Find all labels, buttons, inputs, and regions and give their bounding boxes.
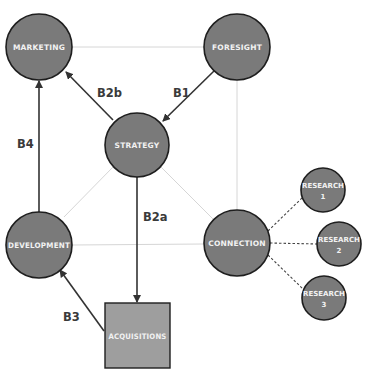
- node-foresight: FORESIGHT: [204, 14, 270, 80]
- edge-label-b2a: B2a: [143, 210, 168, 224]
- node-number-research-1: 1: [321, 193, 326, 201]
- node-development: DEVELOPMENT: [6, 212, 72, 278]
- grid-line-strategy-development: [64, 167, 113, 217]
- node-connection: CONNECTION: [204, 210, 270, 276]
- node-acquisitions: ACQUISITIONS: [105, 303, 170, 368]
- grid-line-strategy-connection: [161, 167, 213, 219]
- edge-label-b3: B3: [63, 310, 80, 324]
- node-label-research-3: RESEARCH: [303, 290, 345, 298]
- node-label-connection: CONNECTION: [208, 239, 266, 248]
- edge-label-b4: B4: [17, 137, 34, 151]
- node-strategy: STRATEGY: [105, 113, 169, 177]
- node-research-3: RESEARCH 3: [302, 276, 346, 320]
- dashed-line-research-1: [268, 197, 303, 231]
- grid-line-development-connection: [72, 244, 204, 245]
- edge-label-b2b: B2b: [97, 86, 122, 100]
- node-label-acquisitions: ACQUISITIONS: [109, 332, 167, 341]
- node-research-1: RESEARCH 1: [301, 168, 345, 212]
- node-label-foresight: FORESIGHT: [212, 43, 263, 52]
- node-number-research-3: 3: [322, 301, 327, 309]
- node-research-2: RESEARCH 2: [317, 222, 361, 266]
- node-number-research-2: 2: [337, 247, 342, 255]
- node-label-research-2: RESEARCH: [318, 236, 360, 244]
- research-connectors: [268, 197, 317, 289]
- node-label-development: DEVELOPMENT: [8, 241, 71, 250]
- dashed-line-research-2: [270, 243, 317, 244]
- loop-diagram: B1 B2b B4 B2a B3 MARKETING FORESIGHT STR…: [0, 0, 369, 372]
- node-label-marketing: MARKETING: [13, 43, 65, 52]
- dashed-line-research-3: [268, 255, 303, 289]
- arrows: [39, 71, 214, 331]
- node-marketing: MARKETING: [6, 14, 72, 80]
- node-label-strategy: STRATEGY: [115, 141, 160, 150]
- edge-label-b1: B1: [173, 86, 190, 100]
- node-label-research-1: RESEARCH: [302, 182, 344, 190]
